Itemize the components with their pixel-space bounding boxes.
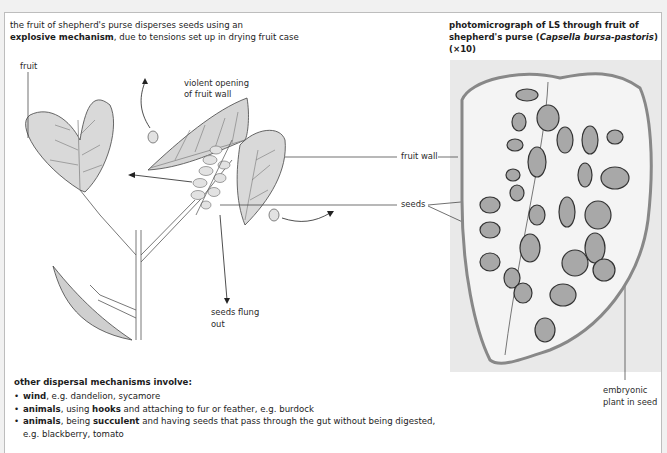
right-fruit-half bbox=[237, 130, 285, 225]
mechanism-succulent-bold2: succulent bbox=[93, 416, 140, 426]
label-seeds: seeds bbox=[401, 199, 425, 211]
mechanism-succulent-rest: and having seeds that pass through the g… bbox=[139, 416, 435, 426]
flung-seed-left bbox=[148, 131, 158, 143]
mechanism-hooks-bold: animals bbox=[23, 404, 61, 414]
shepherds-purse-plant-drawing bbox=[26, 98, 286, 340]
arrow-right bbox=[282, 213, 330, 221]
mechanism-succulent-bold: animals bbox=[23, 416, 61, 426]
mechanism-hooks-rest: and attaching to fur or feather, e.g. bu… bbox=[121, 404, 314, 414]
arrow-left bbox=[134, 175, 192, 182]
flung-seed-right bbox=[269, 209, 279, 221]
arrow-up-left bbox=[141, 82, 150, 128]
mechanism-wind-rest: , e.g. dandelion, sycamore bbox=[46, 391, 160, 401]
label-fruit-wall: fruit wall bbox=[401, 151, 438, 163]
opened-fruit-wall bbox=[148, 98, 248, 170]
mechanism-hooks-bold2: hooks bbox=[92, 404, 121, 414]
mechanism-item-succulent-cont: e.g. blackberry, tomato bbox=[14, 428, 435, 441]
mechanism-hooks-mid: , using bbox=[61, 404, 92, 414]
mechanism-wind-bold: wind bbox=[23, 391, 46, 401]
other-mechanisms-heading: other dispersal mechanisms involve: bbox=[14, 376, 192, 389]
label-fruit: fruit bbox=[20, 61, 37, 73]
arrow-down bbox=[220, 215, 227, 300]
label-seeds-flung-2: out bbox=[211, 319, 225, 331]
left-fruit bbox=[26, 100, 114, 192]
label-embryonic-1: embryonic bbox=[603, 385, 647, 397]
label-embryonic-2: plant in seed bbox=[603, 397, 657, 409]
mechanism-item-wind: wind, e.g. dandelion, sycamore bbox=[14, 390, 435, 403]
mechanism-succulent-mid: , being bbox=[61, 416, 93, 426]
label-violent-opening-2: of fruit wall bbox=[184, 89, 231, 101]
mechanism-item-hooks: animals, using hooks and attaching to fu… bbox=[14, 403, 435, 416]
label-violent-opening-1: violent opening bbox=[184, 78, 249, 90]
mechanisms-list: wind, e.g. dandelion, sycamore animals, … bbox=[14, 390, 435, 440]
label-seeds-flung-1: seeds flung bbox=[211, 307, 259, 319]
micrograph-section bbox=[462, 74, 651, 364]
mechanism-item-succulent: animals, being succulent and having seed… bbox=[14, 415, 435, 428]
